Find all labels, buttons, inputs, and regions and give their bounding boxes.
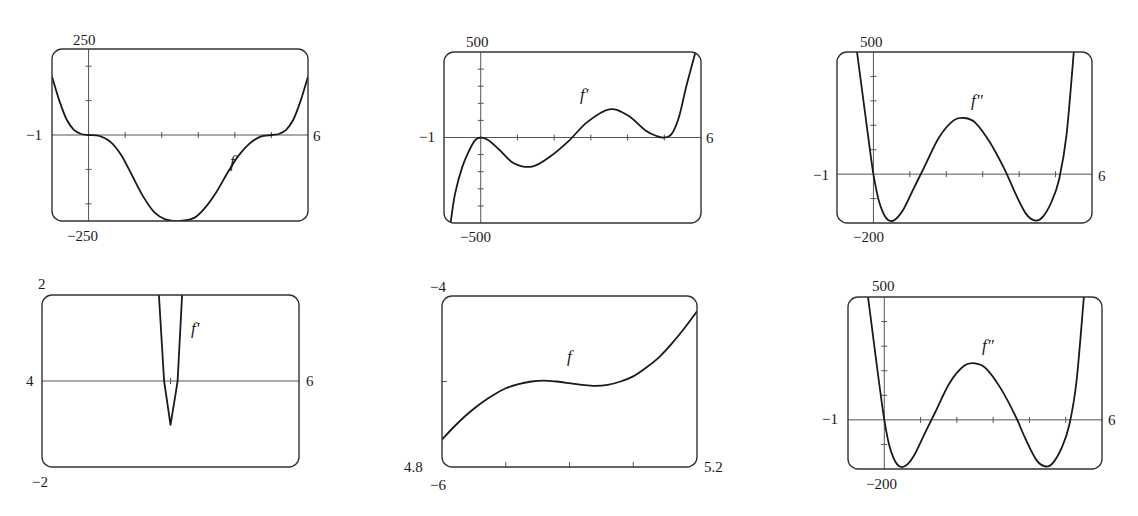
p6-ymax-label: 500 — [872, 279, 895, 294]
p1-curve-label: f — [230, 153, 235, 170]
curve-p1 — [52, 77, 308, 222]
panel-p4 — [42, 295, 299, 467]
p1-xmax-label: 6 — [313, 129, 321, 144]
p3-xmax-label: 6 — [1098, 169, 1106, 184]
p2-ymax-label: 500 — [466, 35, 489, 50]
p4-curve-label: f′ — [191, 320, 199, 337]
curve-p6 — [868, 297, 1084, 467]
panel-p6 — [848, 297, 1102, 469]
figure-canvas — [0, 0, 1138, 516]
panel-p3 — [837, 52, 1092, 223]
p3-ymin-label: −200 — [853, 230, 884, 245]
p3-ymax-label: 500 — [860, 35, 883, 50]
p5-ymax-label: −4 — [430, 280, 446, 295]
p1-ymax-label: 250 — [73, 33, 96, 48]
p1-ymin-label: −250 — [67, 229, 98, 244]
p6-curve-label: f″ — [982, 337, 994, 354]
curve-p3 — [857, 52, 1074, 221]
p4-xmax-label: 6 — [306, 374, 314, 389]
p1-xmin-label: −1 — [26, 128, 42, 143]
p5-ymin-label: −6 — [430, 478, 446, 493]
p6-xmax-label: 6 — [1108, 413, 1116, 428]
p4-ymax-label: 2 — [38, 277, 46, 292]
panel-p1 — [52, 49, 308, 221]
plot-frame — [442, 296, 697, 467]
p5-curve-label: f — [567, 348, 572, 365]
curve-p5 — [442, 311, 697, 439]
p3-xmin-label: −1 — [813, 168, 829, 183]
panel-p5 — [442, 296, 697, 467]
p5-xmin-label: 4.8 — [404, 460, 423, 475]
p3-curve-label: f″ — [971, 92, 983, 109]
p2-xmin-label: −1 — [419, 130, 435, 145]
p2-xmax-label: 6 — [706, 131, 714, 146]
panel-p2 — [444, 52, 701, 223]
p2-ymin-label: −500 — [460, 230, 491, 245]
p4-ymin-label: −2 — [32, 475, 48, 490]
p6-ymin-label: −200 — [866, 477, 897, 492]
p6-xmin-label: −1 — [822, 412, 838, 427]
p5-xmax-label: 5.2 — [704, 460, 723, 475]
p4-xmin-label: 4 — [26, 374, 34, 389]
p2-curve-label: f′ — [580, 86, 588, 103]
curve-p4 — [159, 295, 182, 425]
